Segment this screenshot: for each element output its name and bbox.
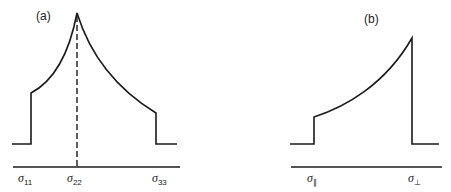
panel-a: (a) σ11 σ22 σ33: [12, 9, 180, 187]
figure-svg: (a) σ11 σ22 σ33 (b) σ∥ σ⊥: [0, 0, 451, 192]
sigma-parallel-label: σ∥: [307, 171, 317, 187]
figure-canvas: (a) σ11 σ22 σ33 (b) σ∥ σ⊥: [0, 0, 451, 192]
panel-b-label: (b): [364, 12, 379, 26]
sigma22-label: σ22: [67, 171, 82, 187]
panel-a-label: (a): [36, 9, 51, 23]
sigma-perpendicular-label: σ⊥: [408, 171, 421, 187]
sigma11-label: σ11: [18, 171, 33, 187]
sigma33-label: σ33: [152, 171, 167, 187]
panel-b: (b) σ∥ σ⊥: [290, 12, 442, 187]
panel-b-lineshape: [290, 38, 439, 144]
panel-a-lineshape: [12, 13, 177, 144]
